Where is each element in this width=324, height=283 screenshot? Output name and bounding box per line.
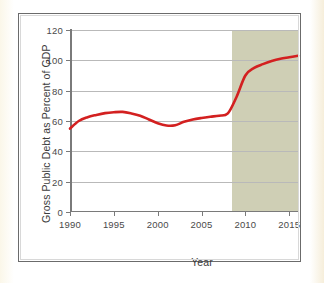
x-tick-label: 2005: [191, 219, 213, 230]
y-tick-label: 0: [58, 207, 63, 218]
x-tick-mark: [114, 212, 115, 216]
y-axis-title: Gross Public Debt as Percent of GDP: [39, 43, 53, 225]
x-tick-label: 1990: [59, 219, 81, 230]
y-tick-label: 120: [47, 25, 63, 36]
y-tick-label: 60: [52, 116, 63, 127]
x-tick-label: 1995: [103, 219, 125, 230]
y-tick-label: 20: [52, 176, 63, 187]
y-tick-label: 80: [52, 85, 63, 96]
figure-root: 020406080100120 199019952000200520102015…: [0, 0, 324, 283]
x-tick-label: 2000: [147, 219, 169, 230]
series-line-gross-public-debt: [70, 56, 298, 129]
data-series-svg: [70, 30, 298, 212]
chart-frame: 020406080100120 199019952000200520102015…: [18, 13, 301, 262]
x-tick-mark: [289, 212, 290, 216]
y-tick-label: 40: [52, 146, 63, 157]
x-axis-title: Year: [88, 256, 316, 268]
x-tick-mark: [158, 212, 159, 216]
x-tick-label: 2010: [234, 219, 256, 230]
x-tick-label: 2015: [278, 219, 300, 230]
plot-area: 020406080100120 199019952000200520102015: [70, 30, 298, 212]
x-tick-mark: [70, 212, 71, 216]
x-tick-mark: [245, 212, 246, 216]
x-tick-mark: [202, 212, 203, 216]
